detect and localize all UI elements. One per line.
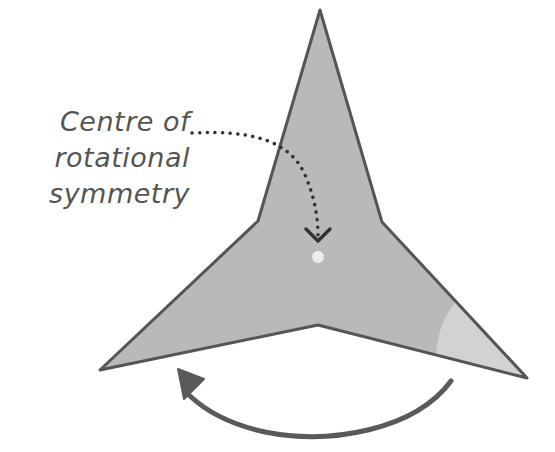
rotation-arrow-curve xyxy=(190,381,451,436)
rotational-symmetry-diagram xyxy=(0,0,555,452)
centre-label: Centre of rotational symmetry xyxy=(0,104,190,212)
label-line-3: symmetry xyxy=(0,176,190,212)
rotation-arrow xyxy=(178,369,451,436)
centre-point xyxy=(312,251,324,263)
label-line-2: rotational xyxy=(0,140,190,176)
label-line-1: Centre of xyxy=(0,104,190,140)
